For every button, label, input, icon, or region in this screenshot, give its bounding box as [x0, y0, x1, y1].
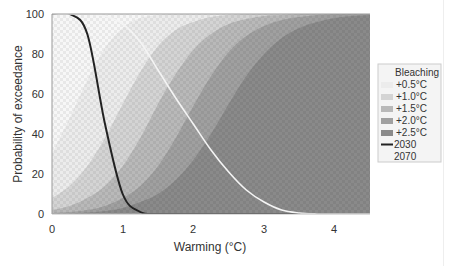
legend-label: +2.0°C [396, 115, 427, 126]
legend: Bleaching +0.5°C +1.0°C +1.5°C +2.0°C +2… [378, 64, 441, 162]
y-tick-40: 40 [32, 128, 44, 140]
legend-title: Bleaching [395, 67, 439, 78]
legend-label: +1.5°C [396, 103, 427, 114]
x-tick-1: 1 [120, 223, 126, 235]
plot-area [52, 13, 370, 215]
legend-label: +1.0°C [396, 91, 427, 102]
y-tick-20: 20 [32, 168, 44, 180]
texture-overlay [52, 14, 370, 214]
x-tick-2: 2 [190, 223, 196, 235]
legend-label: 2070 [394, 151, 417, 162]
x-tick-3: 3 [261, 223, 267, 235]
legend-swatch [381, 130, 393, 136]
y-axis-ticks: 0 20 40 60 80 100 [26, 8, 44, 220]
y-tick-100: 100 [26, 8, 44, 20]
legend-label: +0.5°C [396, 79, 427, 90]
x-tick-0: 0 [49, 223, 55, 235]
y-tick-60: 60 [32, 88, 44, 100]
exceedance-chart: 0 20 40 60 80 100 0 1 2 3 4 Warming (°C)… [0, 0, 450, 266]
legend-swatch [381, 106, 393, 112]
legend-swatch [381, 118, 393, 124]
y-tick-80: 80 [32, 48, 44, 60]
panel-divider [443, 0, 444, 266]
legend-label: 2030 [394, 139, 417, 150]
x-axis-label: Warming (°C) [174, 240, 246, 254]
y-tick-0: 0 [38, 208, 44, 220]
x-tick-4: 4 [331, 223, 337, 235]
x-axis-ticks: 0 1 2 3 4 [49, 223, 337, 235]
legend-swatch [381, 94, 393, 100]
y-axis-label: Probability of exceedance [11, 45, 25, 183]
legend-label: +2.5°C [396, 127, 427, 138]
legend-swatch [381, 82, 393, 88]
